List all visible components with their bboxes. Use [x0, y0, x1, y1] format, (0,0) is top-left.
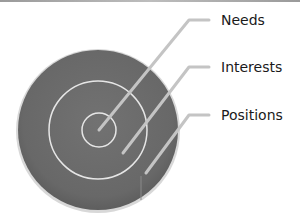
interests-label: Interests — [221, 59, 282, 75]
positions-label: Positions — [221, 107, 283, 123]
needs-label: Needs — [221, 12, 265, 28]
